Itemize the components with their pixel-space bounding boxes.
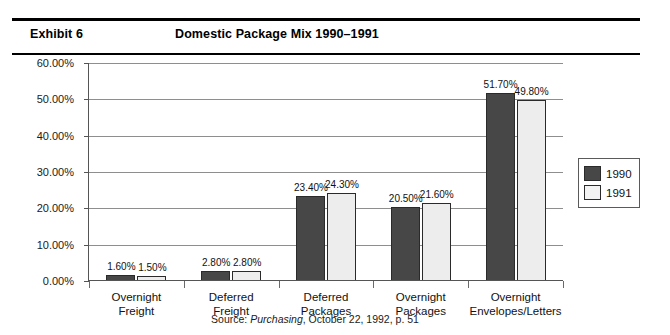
bar-group[interactable]: 2.80%2.80%DeferredFreight: [184, 63, 279, 281]
bar-group[interactable]: 23.40%24.30%DeferredPackages: [279, 63, 374, 281]
page-title: Domestic Package Mix 1990–1991: [175, 27, 379, 41]
bar-1991[interactable]: [422, 203, 451, 281]
source-note: Source: Purchasing, October 22, 1992, p.…: [0, 313, 630, 325]
bar-value-label: 23.40%: [294, 182, 328, 193]
source-publication: Purchasing: [250, 313, 303, 325]
bar-1990[interactable]: [296, 196, 325, 281]
bar-chart: 0.00%10.00%20.00%30.00%40.00%50.00%60.00…: [0, 56, 670, 335]
legend-item-1991[interactable]: 1991: [584, 183, 635, 202]
exhibit-header: Exhibit 6 Domestic Package Mix 1990–1991: [12, 18, 640, 56]
legend-label: 1990: [606, 168, 632, 180]
category-separator-tick: [373, 281, 374, 288]
y-axis-tick-label: 30.00%: [8, 166, 74, 178]
bar-pair: 23.40%24.30%: [279, 63, 374, 281]
y-axis-tick-label: 20.00%: [8, 202, 74, 214]
bar-value-label: 2.80%: [233, 257, 261, 268]
y-axis-tick-label: 40.00%: [8, 130, 74, 142]
legend-item-1990[interactable]: 1990: [584, 164, 635, 183]
bar-pair: 20.50%21.60%: [373, 63, 468, 281]
bar-value-label: 1.60%: [107, 261, 135, 272]
bar-1990[interactable]: [486, 93, 515, 281]
header-rule-bottom: [12, 53, 640, 55]
bar-value-label: 51.70%: [484, 79, 518, 90]
bar-value-label: 20.50%: [389, 193, 423, 204]
bar-group[interactable]: 51.70%49.80%OvernightEnvelopes/Letters: [468, 63, 563, 281]
category-separator-tick: [279, 281, 280, 288]
chart-legend: 19901991: [578, 158, 640, 208]
bar-group[interactable]: 1.60%1.50%OvernightFreight: [89, 63, 184, 281]
header-rule-top: [12, 18, 640, 21]
exhibit-label: Exhibit 6: [30, 27, 83, 41]
legend-label: 1991: [606, 187, 632, 199]
y-axis-tick-label: 0.00%: [8, 275, 74, 287]
legend-swatch: [584, 166, 601, 181]
bar-group[interactable]: 20.50%21.60%OvernightPackages: [373, 63, 468, 281]
y-axis-tick-label: 10.00%: [8, 239, 74, 251]
bar-value-label: 24.30%: [325, 179, 359, 190]
bar-value-label: 2.80%: [202, 257, 230, 268]
legend-swatch: [584, 185, 601, 200]
category-separator-tick: [184, 281, 185, 288]
x-axis-baseline: [89, 280, 563, 282]
bar-pair: 2.80%2.80%: [184, 63, 279, 281]
source-suffix: , October 22, 1992, p. 51: [303, 313, 419, 325]
category-separator-tick: [89, 281, 90, 288]
source-prefix: Source:: [211, 313, 250, 325]
bar-value-label: 21.60%: [420, 189, 454, 200]
bar-1991[interactable]: [327, 193, 356, 281]
bar-1990[interactable]: [391, 207, 420, 281]
category-label-line: Overnight: [451, 290, 581, 304]
bar-pair: 1.60%1.50%: [89, 63, 184, 281]
bar-value-label: 1.50%: [138, 262, 166, 273]
bar-1991[interactable]: [517, 100, 546, 281]
category-separator-tick: [563, 281, 564, 288]
bar-pair: 51.70%49.80%: [468, 63, 563, 281]
bar-value-label: 49.80%: [515, 86, 549, 97]
y-axis-tick-label: 50.00%: [8, 93, 74, 105]
plot-area: 1.60%1.50%OvernightFreight2.80%2.80%Defe…: [88, 63, 562, 281]
category-separator-tick: [468, 281, 469, 288]
y-axis-tick-label: 60.00%: [8, 57, 74, 69]
